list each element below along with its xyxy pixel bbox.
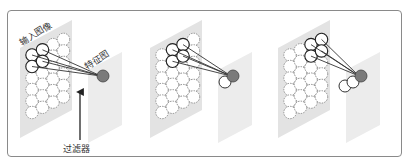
input-pixel xyxy=(284,106,296,118)
input-pixel xyxy=(187,91,199,103)
input-pixel xyxy=(57,45,69,57)
input-pixel xyxy=(177,96,189,108)
convolution-diagram: 输入图像 特征图 过滤器 xyxy=(0,0,407,167)
panel-3 xyxy=(278,20,380,143)
feature-map-plane xyxy=(218,52,252,143)
input-pixel xyxy=(47,96,59,108)
input-pixel xyxy=(57,91,69,103)
input-pixel xyxy=(57,68,69,80)
input-pixel xyxy=(315,79,327,91)
input-pixel xyxy=(166,101,178,113)
input-pixel xyxy=(294,101,306,113)
input-pixel xyxy=(315,91,327,103)
input-pixel xyxy=(187,79,199,91)
input-pixel xyxy=(26,106,38,118)
input-pixel xyxy=(57,33,69,45)
current-feature-value xyxy=(355,70,367,82)
feature-map-plane xyxy=(346,52,380,143)
input-pixel xyxy=(305,96,317,108)
input-pixel xyxy=(315,68,327,80)
filter-label: 过滤器 xyxy=(63,143,90,154)
input-pixel xyxy=(57,79,69,91)
current-feature-value xyxy=(97,70,109,82)
current-feature-value xyxy=(227,70,239,82)
panel-2 xyxy=(150,20,252,143)
input-pixel xyxy=(156,106,168,118)
input-pixel xyxy=(36,101,48,113)
input-pixel xyxy=(187,68,199,80)
